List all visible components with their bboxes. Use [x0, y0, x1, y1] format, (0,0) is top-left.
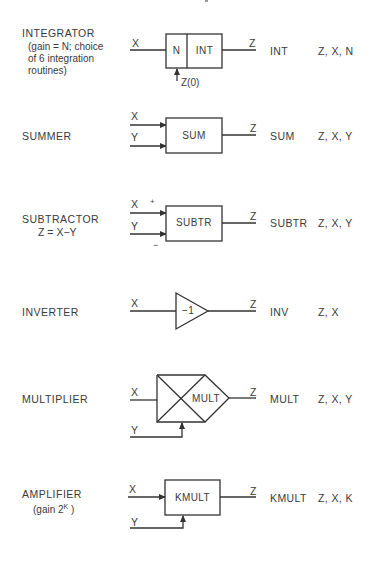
integrator-note-line-2: of 6 integration [28, 53, 94, 66]
summer-args: Z, X, Y [318, 130, 353, 142]
summer-input-x: X [131, 110, 138, 122]
inverter-mnemonic: INV [270, 306, 289, 318]
multiplier-block: MULT [190, 393, 222, 404]
integrator-diagram [130, 34, 256, 81]
inverter-input-x: X [131, 297, 138, 309]
summer-output-z: Z [250, 122, 256, 134]
integrator-args: Z, X, N [318, 45, 353, 57]
amplifier-note-suffix: ) [68, 504, 74, 515]
multiplier-diagram [130, 375, 256, 437]
multiplier-input-y: Y [131, 424, 138, 436]
subtractor-minus-sign: − [153, 240, 158, 250]
amplifier-label: AMPLIFIER [22, 488, 82, 501]
subtractor-args: Z, X, Y [318, 217, 353, 229]
amplifier-note-prefix: (gain 2 [33, 504, 64, 515]
integrator-gain-cell: N [166, 45, 187, 56]
multiplier-mnemonic: MULT [270, 393, 299, 405]
subtractor-input-x: X [131, 198, 138, 210]
subtractor-formula: Z = X−Y [38, 226, 77, 239]
integrator-input-x: X [132, 37, 139, 49]
multiplier-args: Z, X, Y [318, 393, 353, 405]
subtractor-input-y: Y [131, 220, 138, 232]
amplifier-args: Z, X, K [318, 492, 353, 504]
amplifier-output-z: Z [250, 485, 256, 497]
multiplier-output-z: Z [250, 386, 256, 398]
subtractor-block: SUBTR [166, 217, 222, 228]
amplifier-input-x: X [129, 483, 136, 495]
multiplier-input-x: X [131, 386, 138, 398]
amplifier-input-y: Y [131, 516, 138, 528]
integrator-int-cell: INT [187, 45, 222, 56]
amplifier-mnemonic: KMULT [270, 492, 307, 504]
inverter-output-z: Z [250, 298, 256, 310]
subtractor-mnemonic: SUBTR [270, 217, 308, 229]
integrator-note-line-1: (gain = N; choice [28, 41, 103, 54]
amplifier-note: (gain 2K ) [33, 501, 74, 517]
integrator-initial-condition: Z(0) [181, 77, 199, 88]
subtractor-output-z: Z [250, 210, 256, 222]
amplifier-diagram [128, 480, 256, 528]
summer-input-y: Y [131, 131, 138, 143]
summer-mnemonic: SUM [270, 130, 295, 142]
integrator-label: INTEGRATOR [22, 27, 95, 40]
inverter-label: INVERTER [22, 306, 79, 319]
amplifier-block: KMULT [165, 492, 220, 503]
multiplier-label: MULTIPLIER [22, 393, 88, 406]
inverter-args: Z, X [318, 306, 339, 318]
integrator-output-z: Z [249, 37, 255, 49]
summer-label: SUMMER [22, 130, 72, 143]
subtractor-plus-sign: + [150, 197, 155, 206]
subtractor-label: SUBTRACTOR [22, 213, 99, 226]
integrator-note-line-3: routines) [28, 65, 67, 78]
inverter-gain: −1 [177, 305, 199, 316]
summer-block: SUM [166, 130, 222, 141]
integrator-mnemonic: INT [270, 45, 288, 57]
